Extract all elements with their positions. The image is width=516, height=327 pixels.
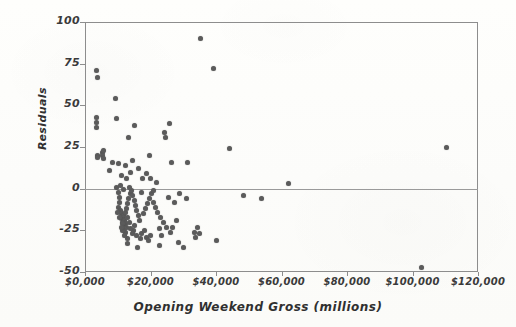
scatter-point	[167, 121, 172, 126]
scatter-point	[124, 206, 129, 211]
scatter-point	[137, 218, 142, 223]
scatter-point	[114, 116, 119, 121]
scatter-point	[126, 135, 131, 140]
scatter-point	[125, 215, 130, 220]
scatter-point	[419, 265, 424, 270]
y-tick-label: -25	[59, 222, 80, 235]
y-tick-label: 100	[56, 14, 80, 27]
scatter-point	[154, 180, 159, 185]
scatter-point	[145, 201, 150, 206]
scatter-point	[155, 210, 160, 215]
scatter-point	[172, 200, 177, 205]
x-tick-label: $80,000	[324, 276, 371, 287]
scatter-point	[153, 205, 158, 210]
scatter-point	[127, 220, 132, 225]
scatter-point	[110, 160, 115, 165]
scatter-point	[174, 218, 179, 223]
y-tick-label: 0	[72, 181, 80, 194]
scatter-point	[128, 170, 133, 175]
scatter-point	[132, 123, 137, 128]
y-tick-label: 25	[64, 139, 80, 152]
scatter-point	[119, 173, 124, 178]
scatter-point	[166, 195, 171, 200]
scatter-point	[241, 193, 246, 198]
scatter-point	[157, 243, 162, 248]
scatter-point	[211, 66, 216, 71]
scatter-point	[157, 226, 162, 231]
scatter-point	[161, 220, 166, 225]
scatter-point	[116, 190, 121, 195]
scatter-point	[164, 225, 169, 230]
scatter-point	[123, 163, 128, 168]
x-tick-label: $60,000	[258, 276, 305, 287]
scatter-point	[147, 153, 152, 158]
scatter-point	[151, 188, 156, 193]
scatter-point	[118, 183, 123, 188]
scatter-point	[159, 233, 164, 238]
scatter-point	[136, 166, 141, 171]
scatter-point	[169, 160, 174, 165]
scatter-point	[185, 160, 190, 165]
scatter-point	[117, 195, 122, 200]
scatter-point	[286, 181, 291, 186]
scatter-point	[168, 230, 173, 235]
scatter-point	[117, 215, 122, 220]
scatter-point	[116, 161, 121, 166]
scatter-point	[113, 96, 118, 101]
scatter-point	[151, 200, 156, 205]
x-tick-label: $120,000	[451, 276, 505, 287]
scatter-point	[184, 196, 189, 201]
scatter-point	[125, 241, 130, 246]
y-axis-title: Residuals	[36, 59, 49, 179]
scatter-point	[444, 145, 449, 150]
scatter-plot-figure: -50-250255075100 Residuals $0,000$20,000…	[0, 0, 516, 327]
x-axis-tick-labels: $0,000$20,000$40,000$60,000$80,000$100,0…	[85, 276, 485, 296]
scatter-point	[158, 215, 163, 220]
scatter-point	[135, 245, 140, 250]
scatter-point	[259, 196, 264, 201]
scatter-point	[177, 191, 182, 196]
scatter-point	[163, 135, 168, 140]
scatter-point	[117, 200, 122, 205]
scatter-point	[138, 236, 143, 241]
scatter-point	[148, 233, 153, 238]
scatter-point	[119, 225, 124, 230]
scatter-points-layer	[85, 22, 478, 272]
scatter-point	[198, 36, 203, 41]
scatter-point	[176, 240, 181, 245]
scatter-point	[214, 238, 219, 243]
y-tick-label: 50	[64, 97, 80, 110]
scatter-point	[95, 75, 100, 80]
scatter-point	[125, 201, 130, 206]
x-axis-title: Opening Weekend Gross (millions)	[0, 300, 516, 314]
scatter-point	[140, 176, 145, 181]
scatter-point	[101, 148, 106, 153]
scatter-point	[197, 231, 202, 236]
x-tick-label: $40,000	[193, 276, 240, 287]
scatter-point	[139, 190, 144, 195]
scatter-point	[148, 176, 153, 181]
scatter-point	[143, 206, 148, 211]
scatter-point	[94, 125, 99, 130]
scatter-point	[130, 158, 135, 163]
scatter-point	[94, 68, 99, 73]
scatter-point	[94, 120, 99, 125]
scatter-point	[181, 245, 186, 250]
scatter-point	[146, 238, 151, 243]
y-tick-label: 75	[64, 56, 80, 69]
scatter-point	[142, 228, 147, 233]
x-tick-label: $20,000	[127, 276, 174, 287]
scatter-point	[195, 225, 200, 230]
scatter-point	[162, 130, 167, 135]
scatter-point	[107, 168, 112, 173]
scatter-point	[141, 211, 146, 216]
scatter-point	[227, 146, 232, 151]
x-tick-label: $0,000	[65, 276, 105, 287]
x-tick-label: $100,000	[385, 276, 439, 287]
scatter-point	[170, 225, 175, 230]
scatter-point	[127, 185, 132, 190]
scatter-point	[192, 230, 197, 235]
scatter-point	[94, 115, 99, 120]
scatter-point	[101, 156, 106, 161]
scatter-point	[115, 210, 120, 215]
